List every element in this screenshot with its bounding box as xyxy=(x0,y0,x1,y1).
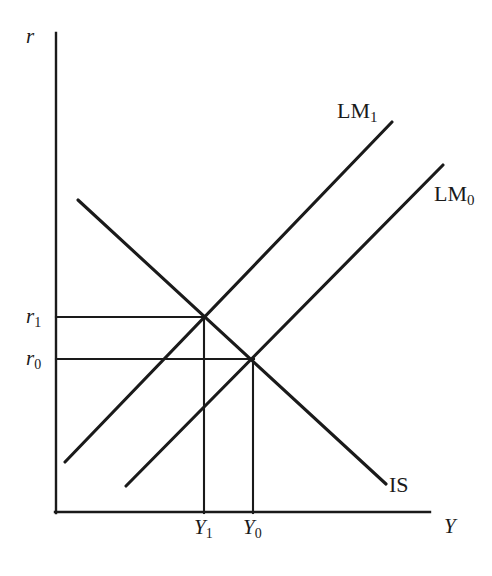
is-curve xyxy=(78,200,386,484)
lm0-curve-label-subscript: 0 xyxy=(467,192,475,208)
lm1-curve-label-subscript: 1 xyxy=(370,109,378,125)
y-axis-label: r xyxy=(26,26,34,47)
diagram-canvas xyxy=(0,0,492,576)
lm0-curve-label-text: LM xyxy=(434,181,467,206)
is-lm-diagram: r Y LM1 LM0 IS r1 r0 Y1 Y0 xyxy=(0,0,492,576)
guidelines-group xyxy=(56,316,254,513)
r1-tick-label: r1 xyxy=(26,306,41,327)
is-curve-label: IS xyxy=(389,474,409,496)
lm1-curve-label-text: LM xyxy=(337,98,370,123)
r0-tick-label-text: r xyxy=(26,346,34,370)
y1-tick-label-subscript: 1 xyxy=(206,526,213,541)
x-axis-label: Y xyxy=(444,516,456,537)
lm1-curve-label: LM1 xyxy=(337,100,378,122)
r0-tick-label: r0 xyxy=(26,348,41,369)
is-curve-label-text: IS xyxy=(389,472,409,497)
y0-tick-label-text: Y xyxy=(243,515,255,539)
y1-tick-label-text: Y xyxy=(194,515,206,539)
r0-tick-label-subscript: 0 xyxy=(34,357,41,372)
lm1-curve xyxy=(65,122,392,462)
lm0-curve xyxy=(126,165,443,486)
y0-tick-label-subscript: 0 xyxy=(255,526,262,541)
lm0-curve-label: LM0 xyxy=(434,183,475,205)
r1-tick-label-text: r xyxy=(26,304,34,328)
y1-tick-label: Y1 xyxy=(194,517,213,538)
y0-tick-label: Y0 xyxy=(243,517,262,538)
r1-tick-label-subscript: 1 xyxy=(34,315,41,330)
